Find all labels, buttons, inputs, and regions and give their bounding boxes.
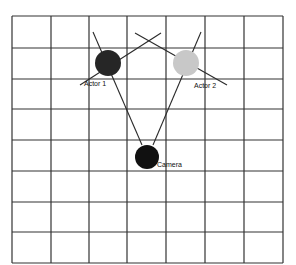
actor2-circle-icon xyxy=(173,50,199,76)
actor1-circle-icon xyxy=(95,50,121,76)
blocking-diagram: Actor 1Actor 2Camera xyxy=(0,0,296,265)
grid xyxy=(12,16,283,263)
camera-label: Camera xyxy=(157,161,182,168)
actor1-label: Actor 1 xyxy=(84,80,106,87)
camera-marker: Camera xyxy=(135,145,182,169)
camera-circle-icon xyxy=(135,145,159,169)
actor2-label: Actor 2 xyxy=(194,82,216,89)
camera-to-actor1-line xyxy=(93,32,142,145)
